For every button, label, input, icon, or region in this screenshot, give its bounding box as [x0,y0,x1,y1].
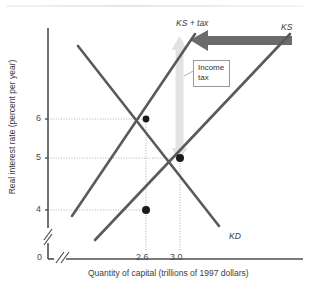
guide-lines [48,119,180,250]
y-tick-label-4: 4 [36,204,41,214]
y-axis-title: Real interest rate (percent per year) [7,52,17,202]
point-equilibrium-before-tax [176,154,184,162]
curve-label-kd: KD [229,231,241,241]
income-tax-callout: Income tax [193,60,230,87]
curve-label-ks: KS [281,22,292,32]
y-break-mark-1 [44,229,52,240]
origin-label: 0 [37,252,42,262]
economics-figure: 6 5 4 0 2.6 3.0 KS + tax KS KD Income ta… [0,0,309,288]
y-tick-label-5: 5 [36,152,41,162]
point-supply-price-after-tax [142,206,150,214]
y-tick-label-6: 6 [36,113,41,123]
curve-label-ks-plus-tax: KS + tax [176,18,208,28]
tax-wedge-arrow [172,36,188,160]
point-equilibrium-after-tax [143,116,150,123]
income-tax-callout-line2: tax [198,73,224,83]
callout-leader-line [184,71,193,76]
chart-canvas [0,0,309,288]
x-axis-title: Quantity of capital (trillions of 1997 d… [88,268,249,278]
x-tick-label-3-0: 3.0 [170,252,183,262]
x-tick-label-2-6: 2.6 [136,252,149,262]
income-tax-callout-line1: Income [198,63,224,73]
